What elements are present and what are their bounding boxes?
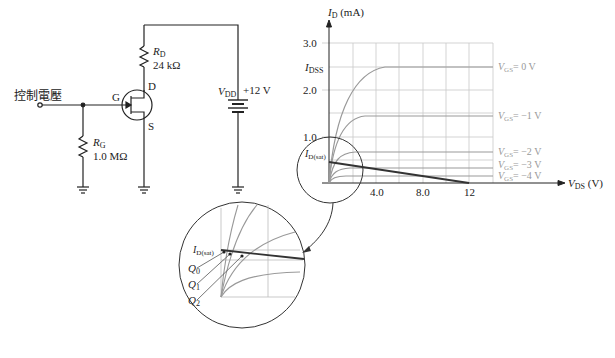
y-tick-2: 2.0	[303, 84, 317, 96]
idsat-label: ID(sat)	[304, 148, 327, 161]
x-axis-label: VDS (V)	[568, 177, 603, 191]
drain-label: D	[148, 80, 156, 92]
q1-label: Q1	[188, 278, 200, 292]
resistor-rd-icon	[140, 46, 148, 67]
rg-value: 1.0 MΩ	[93, 150, 127, 162]
curve-labels: VGS= 0 V VGS= −1 V VGS= −2 V VGS= −3 V V…	[498, 61, 542, 183]
resistor-rg-icon	[79, 136, 87, 157]
source-label: S	[148, 120, 154, 132]
svg-text:VGS= −2 V: VGS= −2 V	[498, 146, 542, 159]
ground-icon	[232, 187, 244, 193]
x-tick-4: 4.0	[370, 186, 384, 198]
input-label: 控制電壓	[14, 89, 62, 103]
y-tick-1: 1.0	[303, 131, 317, 143]
rd-value: 24 kΩ	[153, 59, 180, 71]
graph-grid	[322, 43, 493, 183]
rd-label: RD	[152, 45, 166, 59]
q0-label: Q0	[188, 262, 200, 276]
x-tick-12: 12	[464, 186, 475, 198]
vdd-label: VDD	[218, 85, 237, 99]
y-axis-label: ID (mA)	[327, 6, 364, 20]
svg-text:VGS= 0 V: VGS= 0 V	[498, 61, 537, 74]
q2-label: Q2	[188, 294, 200, 308]
svg-text:VGS= −1 V: VGS= −1 V	[498, 110, 542, 123]
circuit	[38, 25, 248, 193]
vdd-value: +12 V	[243, 84, 271, 96]
gate-label: G	[112, 91, 120, 103]
figure-canvas: 控制電壓 G D S RD 24 kΩ RG 1.0 MΩ VDD +12 V …	[0, 0, 615, 358]
inset-circle	[179, 202, 305, 328]
idss-label: IDSS	[304, 61, 323, 75]
ground-icon	[77, 187, 89, 193]
ground-icon	[138, 187, 150, 193]
x-tick-8: 8.0	[416, 186, 430, 198]
inset-load-line	[221, 250, 304, 259]
inset-idsat-label: ID(sat)	[192, 244, 215, 257]
rg-label: RG	[92, 136, 106, 150]
input-terminal-icon	[38, 103, 42, 107]
callout-arrow	[306, 203, 333, 250]
y-tick-3: 3.0	[303, 37, 317, 49]
q-point-leaders	[197, 252, 242, 300]
